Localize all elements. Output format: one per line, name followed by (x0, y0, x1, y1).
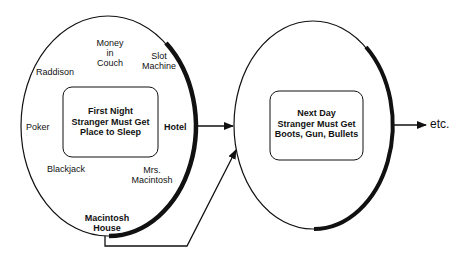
option-slot-machine: Slot Machine (136, 51, 182, 71)
option-line: Machine (136, 61, 182, 71)
option-line: Mrs. (127, 165, 177, 175)
option-hotel: Hotel (164, 122, 187, 132)
option-line: House (82, 223, 132, 233)
box-line: Place to Sleep (63, 127, 158, 138)
option-line: Macintosh (127, 175, 177, 185)
option-line: Macintosh (82, 213, 132, 223)
option-line: in (90, 48, 130, 58)
option-money-in-couch: Money in Couch (90, 38, 130, 68)
option-line: Slot (136, 51, 182, 61)
option-mrs-macintosh: Mrs. Macintosh (127, 165, 177, 185)
box-line: Stranger Must Get (63, 117, 158, 128)
option-line: Money (90, 38, 130, 48)
box-line: Next Day (270, 108, 363, 119)
continuation-label: etc. (430, 117, 449, 131)
box-line: First Night (63, 106, 158, 117)
stage1-box-text: First Night Stranger Must Get Place to S… (63, 106, 158, 138)
stage2-box-text: Next Day Stranger Must Get Boots, Gun, B… (270, 108, 363, 140)
option-blackjack: Blackjack (47, 164, 85, 174)
option-macintosh-house: Macintosh House (82, 213, 132, 233)
option-raddison: Raddison (36, 67, 74, 77)
box-line: Boots, Gun, Bullets (270, 129, 363, 140)
box-line: Stranger Must Get (270, 119, 363, 130)
option-line: Couch (90, 58, 130, 68)
option-poker: Poker (26, 122, 50, 132)
